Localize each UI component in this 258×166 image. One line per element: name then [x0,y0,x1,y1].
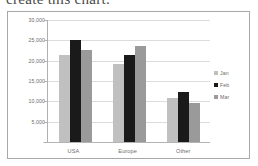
caption-strip: create this chart. [0,0,258,9]
caption-text: create this chart. [6,0,110,8]
bar [70,40,81,142]
bar [124,55,135,142]
bar-group [113,20,146,142]
x-axis-category-label: Europe [118,148,137,160]
bar [178,92,189,142]
x-axis-category-label: Other [176,148,191,160]
gridline [48,142,210,143]
y-axis-tick-mark [44,20,48,21]
y-axis-tick-mark [44,61,48,62]
x-axis-category-label: USA [68,148,80,160]
bar-group [167,20,200,142]
legend-swatch-icon [214,83,218,87]
legend-swatch-icon [214,95,218,99]
legend-item[interactable]: Mar [214,91,250,103]
legend-label: Feb [220,82,229,88]
y-axis-tick-label: 5,000 [32,119,45,125]
legend-item[interactable]: Jan [214,67,250,79]
bar-group [59,20,92,142]
y-axis-tick-mark [44,101,48,102]
y-axis-tick-mark [44,142,48,143]
y-axis-tick-label: 20,000 [29,58,45,64]
y-axis-tick-label: 25,000 [29,37,45,43]
y-axis-tick-label: 30,000 [29,17,45,23]
legend-label: Jan [220,70,229,76]
bar [189,103,200,142]
y-axis-tick-mark [44,122,48,123]
x-axis-labels: USAEuropeOther [48,148,210,160]
bar [81,50,92,142]
y-axis-tick-label: 10,000 [29,98,45,104]
bar [135,46,146,142]
chart-frame: -5,00010,00015,00020,00025,00030,000 USA… [7,11,250,159]
chart-legend: JanFebMar [214,67,250,103]
legend-item[interactable]: Feb [214,79,250,91]
plot-area-wrapper: -5,00010,00015,00020,00025,00030,000 USA… [8,12,249,158]
screenshot-root: create this chart. -5,00010,00015,00020,… [0,0,258,166]
legend-swatch-icon [214,71,218,75]
plot-area [48,20,210,142]
y-axis-tick-mark [44,40,48,41]
bar [59,55,70,142]
y-axis-tick-mark [44,81,48,82]
y-axis-tick-label: 15,000 [29,78,45,84]
bar [167,98,178,142]
bar [113,64,124,142]
y-axis-labels: -5,00010,00015,00020,00025,00030,000 [8,12,48,160]
legend-label: Mar [220,94,229,100]
bar-groups [48,20,210,142]
